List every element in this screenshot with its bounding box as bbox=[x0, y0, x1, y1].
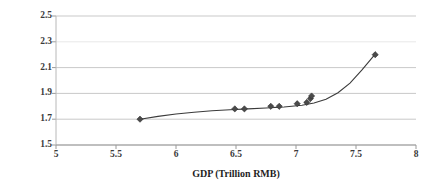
x-tick-label: 6 bbox=[162, 149, 190, 159]
y-tick-marks bbox=[52, 16, 56, 145]
y-tick-label: 2.1 bbox=[28, 62, 52, 72]
y-tick-label: 1.9 bbox=[28, 87, 52, 97]
x-tick-label: 7 bbox=[282, 149, 310, 159]
plot-background bbox=[56, 16, 416, 145]
x-axis-label: GDP (Trillion RMB) bbox=[56, 168, 416, 179]
y-tick-label: 1.5 bbox=[28, 139, 52, 149]
x-tick-label: 6.5 bbox=[222, 149, 250, 159]
chart-container: carbon emission (billion tons) 1.51.71.9… bbox=[0, 0, 429, 190]
x-tick-label: 7.5 bbox=[342, 149, 370, 159]
y-tick-label: 1.7 bbox=[28, 113, 52, 123]
y-tick-label: 2.3 bbox=[28, 36, 52, 46]
x-tick-label: 8 bbox=[402, 149, 429, 159]
plot-area bbox=[0, 0, 429, 190]
x-tick-label: 5 bbox=[42, 149, 70, 159]
y-tick-label: 2.5 bbox=[28, 10, 52, 20]
x-tick-label: 5.5 bbox=[102, 149, 130, 159]
